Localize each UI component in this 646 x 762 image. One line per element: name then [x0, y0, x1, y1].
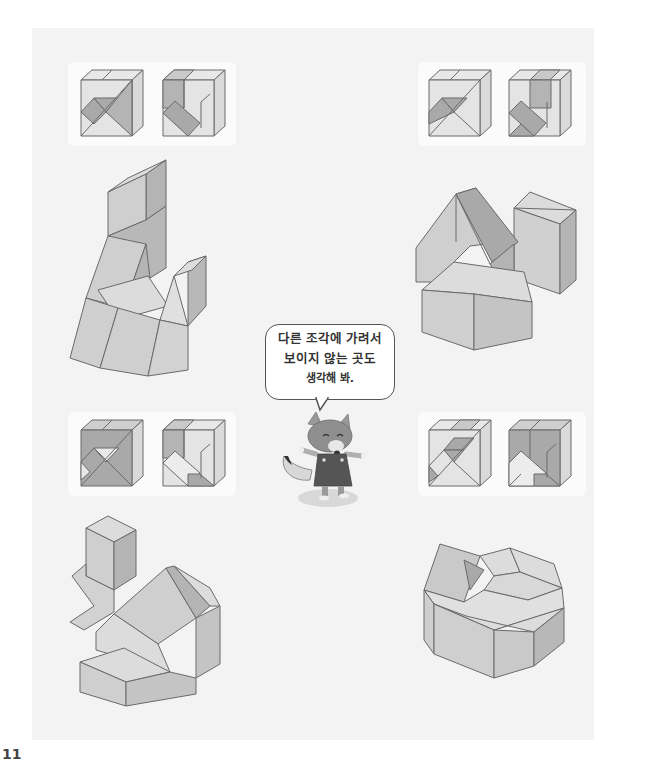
figure-bottom-right: [424, 544, 574, 680]
cube-view-bottom-right-2: [504, 418, 574, 488]
cube-view-top-left-2: [158, 68, 228, 138]
fox-character: [270, 410, 370, 510]
speech-line-2: 보이지 않는 곳도: [266, 349, 394, 369]
figure-top-left: [78, 158, 228, 378]
cube-view-top-right-2: [504, 68, 574, 138]
cube-view-bottom-left-2: [158, 418, 228, 488]
cube-view-top-right-1: [424, 68, 494, 138]
page-number: 11: [2, 746, 21, 762]
cube-view-top-left-1: [76, 68, 146, 138]
speech-line-1: 다른 조각에 가려서: [266, 329, 394, 349]
cube-view-bottom-right-1: [424, 418, 494, 488]
figure-top-right: [414, 186, 594, 346]
cube-view-bottom-left-1: [76, 418, 146, 488]
speech-line-3: 생각해 봐.: [266, 369, 394, 389]
speech-bubble: 다른 조각에 가려서 보이지 않는 곳도 생각해 봐.: [265, 324, 395, 400]
figure-bottom-left: [70, 514, 245, 704]
